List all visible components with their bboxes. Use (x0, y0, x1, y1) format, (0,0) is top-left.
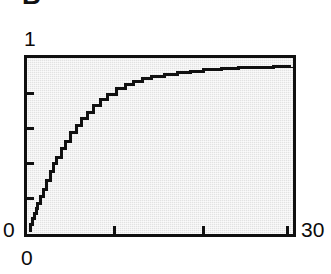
y-axis-ticks (27, 92, 34, 200)
x-tick (202, 226, 205, 234)
x-axis-ticks (113, 226, 289, 234)
x-tick (113, 226, 116, 234)
data-series-line (29, 67, 291, 231)
x-axis-min-label: 0 (21, 247, 33, 268)
chart-svg (27, 58, 293, 234)
y-tick (27, 197, 34, 200)
plot-area (24, 55, 296, 237)
y-tick (27, 162, 34, 165)
x-tick (286, 226, 289, 234)
panel-letter: B (22, 0, 41, 6)
y-tick (27, 127, 34, 130)
y-tick (27, 92, 34, 95)
x-axis-max-label: 30 (301, 219, 324, 240)
figure-panel: B 1 0 0 30 (0, 0, 331, 274)
y-axis-min-label: 0 (3, 219, 15, 240)
y-axis-max-label: 1 (24, 28, 36, 49)
